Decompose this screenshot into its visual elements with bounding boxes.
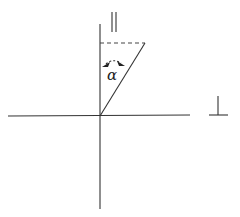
perpendicular-symbol-icon	[209, 96, 228, 115]
diagram-canvas: α	[0, 0, 240, 217]
angle-label: α	[107, 66, 117, 84]
perpendicular-axis	[8, 115, 190, 116]
parallel-symbol-icon	[112, 12, 116, 32]
